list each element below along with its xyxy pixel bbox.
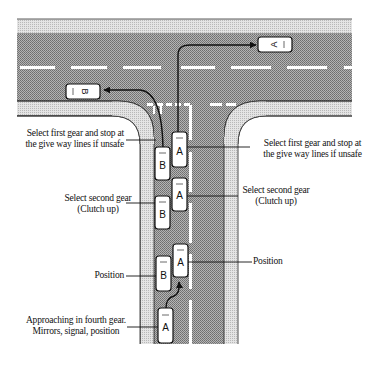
label-left-stop-line1: Select first gear and stop at bbox=[0, 128, 124, 139]
label-right-stop-line1: Select first gear and stop at bbox=[250, 138, 375, 149]
label-left-second-line1: Select second gear bbox=[58, 193, 138, 204]
car-letter-b-main: B bbox=[79, 84, 90, 100]
label-left-stop: Select first gear and stop at the give w… bbox=[0, 128, 124, 150]
label-right-position: Position bbox=[253, 256, 313, 267]
car-letter-b2: B bbox=[155, 209, 170, 220]
car-letter-a1: A bbox=[172, 146, 187, 157]
label-left-second-line2: (Clutch up) bbox=[58, 204, 138, 215]
label-left-position: Position bbox=[60, 270, 124, 281]
label-right-stop: Select first gear and stop at the give w… bbox=[250, 138, 375, 160]
junction-diagram: B A B A B A B A A Select first gear and … bbox=[0, 0, 375, 366]
label-approach-line2: Mirrors, signal, position bbox=[20, 326, 132, 337]
label-approach-line1: Approaching in fourth gear. bbox=[20, 315, 132, 326]
car-letter-a3: A bbox=[173, 257, 188, 268]
car-letter-a2: A bbox=[172, 190, 187, 201]
label-right-stop-line2: the give way lines if unsafe bbox=[250, 149, 375, 160]
label-left-stop-line2: the give way lines if unsafe bbox=[0, 139, 124, 150]
label-right-second-line2: (Clutch up) bbox=[236, 196, 316, 207]
label-right-second-line1: Select second gear bbox=[236, 185, 316, 196]
label-approach: Approaching in fourth gear. Mirrors, sig… bbox=[20, 315, 132, 337]
car-letter-a4: A bbox=[158, 322, 173, 333]
road-layout bbox=[0, 0, 375, 366]
label-right-second: Select second gear (Clutch up) bbox=[236, 185, 316, 207]
car-letter-b1: B bbox=[155, 160, 170, 171]
car-letter-b3: B bbox=[156, 270, 171, 281]
car-letter-a-main: A bbox=[269, 37, 280, 53]
label-left-second: Select second gear (Clutch up) bbox=[58, 193, 138, 215]
